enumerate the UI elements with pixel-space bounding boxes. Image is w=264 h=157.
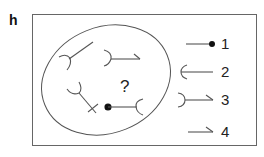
legend-item-2 xyxy=(181,65,213,79)
legend-item-4 xyxy=(188,127,213,132)
dot-icon xyxy=(209,41,215,47)
symbol-dot-line-cup-icon xyxy=(105,99,143,115)
symbol-ellipse xyxy=(25,6,187,154)
legend-number: 3 xyxy=(221,91,229,108)
legend-number: 1 xyxy=(221,35,229,52)
symbol-cup-with-hooked-line-icon xyxy=(104,50,140,66)
cup-icon xyxy=(178,93,185,107)
legend-item-1: 1 xyxy=(186,35,229,52)
legend-item-3 xyxy=(178,93,213,107)
symbol-cup-with-crossed-line-icon xyxy=(67,82,98,113)
question-mark: ? xyxy=(120,77,129,96)
symbol-cup-with-diagonal-icon xyxy=(59,42,93,70)
legend-number: 2 xyxy=(221,63,229,80)
puzzle-diagram: ? 1 2 3 4 xyxy=(0,0,264,157)
legend-number: 4 xyxy=(221,123,229,140)
